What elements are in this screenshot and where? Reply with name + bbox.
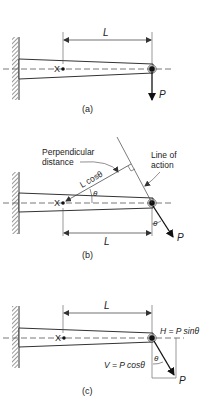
perpendicular-label-2: distance xyxy=(42,157,74,167)
load-pin xyxy=(149,66,156,73)
panel-b: X L cosθ θ Perpendicular distance Line o… xyxy=(3,137,184,260)
dimension-l-label: L xyxy=(104,236,110,247)
panel-c: X L P θ H = P sinθ V = P cosθ (c) xyxy=(3,300,199,396)
wall-hatch xyxy=(12,37,18,100)
point-x-label: X xyxy=(55,333,61,343)
force-p-label: P xyxy=(159,89,166,100)
horizontal-component-label: H = P sinθ xyxy=(160,326,199,336)
point-x xyxy=(61,67,65,71)
point-x-label: X xyxy=(54,64,60,74)
line-of-action-label-2: action xyxy=(151,160,174,170)
beam xyxy=(19,193,153,212)
force-angle-theta-label: θ xyxy=(153,219,158,228)
line-of-action-label: Line of xyxy=(151,150,177,160)
force-p-label: P xyxy=(179,375,186,386)
point-x-label: X xyxy=(54,198,60,208)
line-of-action-leader xyxy=(145,172,160,186)
point-x xyxy=(62,336,66,340)
line-of-action xyxy=(117,137,152,203)
dimension-l-label: L xyxy=(103,27,109,38)
caption-a: (a) xyxy=(82,104,93,114)
load-pin xyxy=(149,335,156,342)
wall-hatch xyxy=(12,306,18,368)
angle-theta-label: θ xyxy=(154,354,159,363)
vertical-component-label: V = P cosθ xyxy=(104,360,145,370)
point-x xyxy=(61,201,65,205)
panel-a: X L P (a) xyxy=(3,27,172,114)
cantilever-force-diagram: X L P (a) X L cosθ θ Perpendicular dista… xyxy=(0,0,209,403)
caption-b: (b) xyxy=(82,250,93,260)
force-p-label: P xyxy=(177,232,184,243)
beam xyxy=(19,328,153,347)
perpendicular-label: Perpendicular xyxy=(42,147,95,157)
caption-c: (c) xyxy=(82,386,93,396)
angle-theta-label: θ xyxy=(93,189,98,198)
dimension-l-label: L xyxy=(104,300,110,311)
